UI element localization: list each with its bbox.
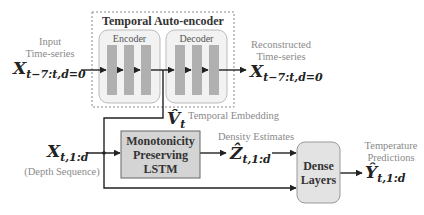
decoder-layer-1 <box>175 45 185 95</box>
embedding-caption: Temporal Embedding <box>188 110 279 122</box>
embedding-symbol: V̂t <box>167 108 185 131</box>
recon-symbol: Xt−7:t,d=0 <box>250 61 323 84</box>
input-symbol: Xt−7:t,d=0 <box>13 58 86 81</box>
encoder-layer-3 <box>141 45 151 95</box>
density-symbol: Ẑt,1:d <box>230 143 271 166</box>
recon-caption-line1: Reconstructed <box>240 39 322 51</box>
decoder-label: Decoder <box>166 33 227 45</box>
encoder-label: Encoder <box>99 33 160 45</box>
depth-input-symbol: Xt,1:d <box>47 141 89 164</box>
encoder-layer-1 <box>107 45 117 95</box>
density-caption: Density Estimates <box>218 131 294 143</box>
dense-layers-label: DenseLayers <box>297 159 340 187</box>
prediction-symbol: Ŷt,1:d <box>365 162 405 185</box>
depth-input-caption: (Depth Sequence) <box>22 166 102 178</box>
decoder-layer-2 <box>192 45 202 95</box>
lstm-label: MonotonicityPreservingLSTM <box>121 134 200 176</box>
input-caption-line1: Input <box>20 36 80 48</box>
decoder-layer-3 <box>209 45 219 95</box>
prediction-caption-line1: Temperature <box>358 140 424 152</box>
autoencoder-title: Temporal Auto-encoder <box>92 14 234 28</box>
encoder-layer-2 <box>124 45 134 95</box>
